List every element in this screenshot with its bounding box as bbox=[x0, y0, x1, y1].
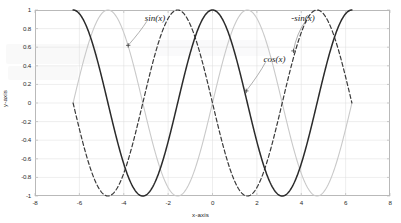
chart-canvas bbox=[0, 0, 401, 223]
x-tick-label: -8 bbox=[25, 199, 45, 206]
x-tick-label: -6 bbox=[69, 199, 89, 206]
x-tick-label: 0 bbox=[203, 199, 223, 206]
y-tick-label: 0 bbox=[5, 99, 31, 106]
y-tick-label: 0.8 bbox=[5, 25, 31, 32]
y-tick-label: 0.6 bbox=[5, 43, 31, 50]
y-tick-label: 0.2 bbox=[5, 80, 31, 87]
x-tick-label: -2 bbox=[158, 199, 178, 206]
annotation-label: -sin(x) bbox=[291, 13, 315, 23]
x-tick-label: 6 bbox=[336, 199, 356, 206]
x-tick-label: 8 bbox=[380, 199, 400, 206]
y-tick-label: -0.6 bbox=[5, 155, 31, 162]
y-tick-label: -0.4 bbox=[5, 136, 31, 143]
figure-root: -1-0.8-0.6-0.4-0.200.20.40.60.81 -8-6-4-… bbox=[0, 0, 401, 223]
y-tick-label: 0.4 bbox=[5, 62, 31, 69]
y-tick-label: 1 bbox=[5, 6, 31, 13]
annotation-label: cos(x) bbox=[264, 54, 286, 64]
x-tick-label: 4 bbox=[291, 199, 311, 206]
y-axis-title: y-axis bbox=[1, 79, 8, 119]
annotation-label: sin(x) bbox=[145, 13, 166, 23]
y-tick-label: -1 bbox=[5, 192, 31, 199]
y-tick-label: -0.8 bbox=[5, 173, 31, 180]
x-axis-title: x-axis bbox=[0, 211, 401, 218]
x-tick-label: -4 bbox=[114, 199, 134, 206]
y-tick-label: -0.2 bbox=[5, 118, 31, 125]
x-tick-label: 2 bbox=[247, 199, 267, 206]
